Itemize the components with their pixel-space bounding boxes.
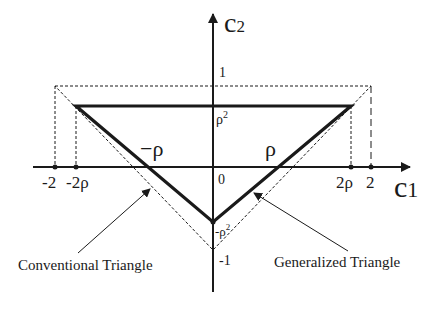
tick-label-rho-sq: ρ2 bbox=[216, 109, 228, 127]
edge-label-rho: ρ bbox=[265, 136, 276, 161]
tick-label-neg-2rho: -2ρ bbox=[66, 173, 89, 192]
tick-label-neg-rho-sq: -ρ2 bbox=[215, 222, 230, 239]
tick-label-2rho: 2ρ bbox=[336, 173, 353, 192]
tick-label-2: 2 bbox=[366, 173, 375, 192]
triangle-diagram: c2 c1 -2 -2ρ 2ρ 2 1 ρ2 0 -ρ2 -1 −ρ ρ Con… bbox=[0, 0, 432, 310]
tick-label-neg-2: -2 bbox=[42, 173, 56, 192]
tick-label-1: 1 bbox=[219, 65, 226, 80]
tick-label-0: 0 bbox=[218, 172, 225, 187]
tick-dot-2rho bbox=[349, 165, 354, 170]
x-axis-label: c1 bbox=[394, 170, 418, 203]
y-axis-label: c2 bbox=[224, 7, 245, 38]
tick-dot-2 bbox=[369, 165, 374, 170]
generalized-triangle-label: Generalized Triangle bbox=[274, 254, 401, 270]
tick-label-neg-1: -1 bbox=[219, 253, 231, 268]
tick-dot-neg-2rho bbox=[74, 165, 79, 170]
conventional-arrow bbox=[78, 189, 150, 253]
generalized-arrow bbox=[254, 193, 348, 251]
edge-label-neg-rho: −ρ bbox=[140, 136, 163, 161]
conventional-triangle-label: Conventional Triangle bbox=[18, 257, 153, 273]
tick-dot-neg-2 bbox=[53, 165, 58, 170]
